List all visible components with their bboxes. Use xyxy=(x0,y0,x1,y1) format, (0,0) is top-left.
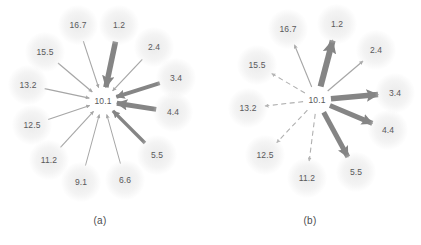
figure-container: 10.11.22.43.44.45.56.69.111.212.513.215.… xyxy=(0,0,421,245)
arrow-b-12-5 xyxy=(277,110,308,142)
arrow-a-12-5 xyxy=(48,105,90,119)
node-b-12-5[interactable]: 12.5 xyxy=(245,135,285,175)
node-b-1-2[interactable]: 1.2 xyxy=(317,4,357,44)
node-b-4-4[interactable]: 4.4 xyxy=(368,110,408,150)
arrow-a-16-7 xyxy=(83,41,98,88)
arrow-b-1-2 xyxy=(321,40,333,86)
node-a-16-7[interactable]: 16.7 xyxy=(58,5,98,45)
arrow-b-5-5 xyxy=(324,112,348,157)
arrow-b-15-5 xyxy=(272,74,305,93)
arrow-a-2-4 xyxy=(113,59,143,90)
arrow-b-4-4 xyxy=(330,105,372,123)
node-a-11-2[interactable]: 11.2 xyxy=(29,140,69,180)
arrow-a-11-2 xyxy=(60,111,93,147)
node-label: 3.4 xyxy=(170,73,182,83)
node-label: 1.2 xyxy=(331,19,343,29)
node-label: 11.2 xyxy=(41,155,57,165)
arrow-a-1-2 xyxy=(106,42,116,88)
node-b-15-5[interactable]: 15.5 xyxy=(237,45,277,85)
node-b-3-4[interactable]: 3.4 xyxy=(375,73,415,113)
node-label: 11.2 xyxy=(299,173,315,183)
node-b-13-2[interactable]: 13.2 xyxy=(228,88,268,128)
arrow-a-15-5 xyxy=(58,63,92,92)
node-a-4-4[interactable]: 4.4 xyxy=(153,92,193,132)
node-label: 6.6 xyxy=(119,175,131,185)
node-b-16-7[interactable]: 16.7 xyxy=(268,9,308,49)
arrow-a-4-4 xyxy=(117,103,156,109)
arrow-a-13-2 xyxy=(45,89,90,99)
arrow-b-11-2 xyxy=(309,114,315,161)
arrow-b-2-4 xyxy=(328,61,363,91)
node-label: 3.4 xyxy=(389,88,401,98)
caption-b: (b) xyxy=(304,215,317,226)
arrow-a-5-5 xyxy=(113,111,145,143)
node-label: 16.7 xyxy=(70,20,87,30)
node-label: 13.2 xyxy=(240,103,257,113)
node-b-2-4[interactable]: 2.4 xyxy=(356,30,396,70)
arrow-b-16-7 xyxy=(294,45,311,87)
node-label: 16.7 xyxy=(280,24,297,34)
node-label: 5.5 xyxy=(350,167,362,177)
arrow-b-13-2 xyxy=(265,102,303,106)
arrow-a-9-1 xyxy=(85,115,99,166)
node-a-6-6[interactable]: 6.6 xyxy=(105,160,145,200)
node-label: 2.4 xyxy=(148,42,160,52)
node-label: 13.2 xyxy=(20,80,37,90)
node-label: 1.2 xyxy=(113,20,125,30)
node-label: 9.1 xyxy=(75,177,87,187)
node-a-1-2[interactable]: 1.2 xyxy=(99,5,139,45)
node-label: 2.4 xyxy=(370,45,382,55)
node-label: 12.5 xyxy=(24,120,41,130)
node-label: 4.4 xyxy=(167,107,179,117)
node-a-15-5[interactable]: 15.5 xyxy=(25,32,65,72)
node-b-5-5[interactable]: 5.5 xyxy=(336,152,376,192)
node-a-12-5[interactable]: 12.5 xyxy=(12,105,52,145)
node-label: 12.5 xyxy=(257,150,274,160)
node-label: 15.5 xyxy=(37,47,54,57)
center-node-b[interactable]: 10.1 xyxy=(300,89,334,111)
arrow-a-6-6 xyxy=(107,114,121,163)
arrow-b-3-4 xyxy=(331,95,378,99)
caption-a: (a) xyxy=(94,215,107,226)
node-a-5-5[interactable]: 5.5 xyxy=(137,135,177,175)
node-label: 15.5 xyxy=(249,60,266,70)
center-node-label: 10.1 xyxy=(95,96,112,106)
arrow-a-3-4 xyxy=(116,83,159,97)
center-node-label: 10.1 xyxy=(309,95,326,105)
center-node-a[interactable]: 10.1 xyxy=(86,90,120,112)
node-label: 5.5 xyxy=(151,150,163,160)
panel-b: 10.11.22.43.44.45.511.212.513.215.516.7(… xyxy=(210,0,421,245)
node-b-11-2[interactable]: 11.2 xyxy=(287,158,327,198)
node-label: 4.4 xyxy=(382,125,394,135)
panel-a: 10.11.22.43.44.45.56.69.111.212.513.215.… xyxy=(0,0,211,245)
